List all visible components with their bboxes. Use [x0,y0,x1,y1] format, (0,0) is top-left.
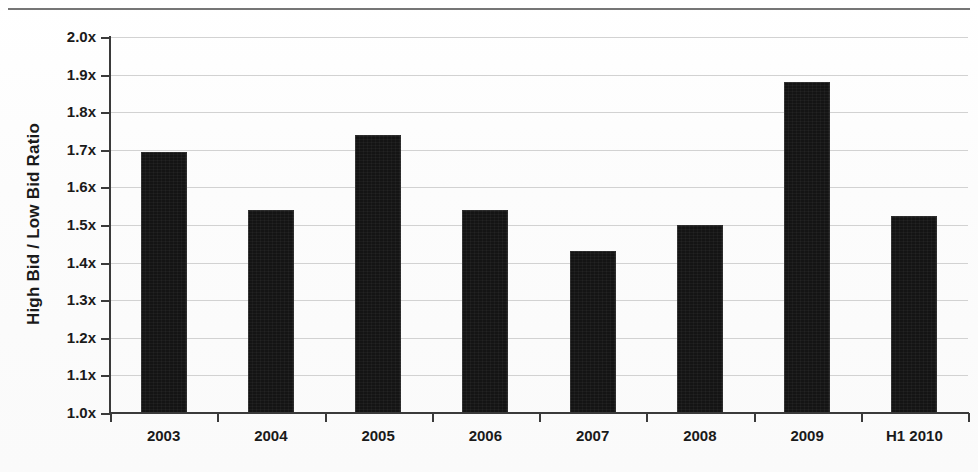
bar [677,225,723,413]
gridline [110,112,968,113]
gridline [110,225,968,226]
bar-chart: High Bid / Low Bid Ratio 1.0x1.1x1.2x1.3… [0,0,978,472]
y-axis-tick [101,375,110,377]
x-axis-tick [754,413,756,422]
x-axis-tick [539,413,541,422]
y-axis-tick [101,413,110,415]
gridline [110,150,968,151]
x-axis-tick-label: 2003 [147,427,180,444]
plot-area [110,37,968,413]
x-axis-tick [217,413,219,422]
y-axis-tick-label: 1.8x [34,103,96,120]
x-axis-tick-label: 2004 [254,427,287,444]
y-axis-tick [101,150,110,152]
bar [784,82,830,413]
y-axis-tick-label: 1.0x [34,404,96,421]
y-axis-tick [101,112,110,114]
y-axis-tick-label: 1.9x [34,66,96,83]
y-axis-tick-label: 1.4x [34,254,96,271]
gridline [110,37,968,38]
y-axis-tick [101,225,110,227]
x-axis-tick [110,413,112,422]
bar [462,210,508,413]
gridline [110,300,968,301]
bar [570,251,616,413]
y-axis-tick [101,37,110,39]
bar [248,210,294,413]
gridline [110,263,968,264]
gridline [110,75,968,76]
y-axis-tick-label: 1.1x [34,366,96,383]
y-axis-tick-label: 1.2x [34,329,96,346]
x-axis-tick [432,413,434,422]
x-axis-tick-label: H1 2010 [886,427,943,444]
x-axis-tick-label: 2008 [683,427,716,444]
x-axis-tick [325,413,327,422]
y-axis-tick [101,338,110,340]
y-axis-tick-label: 1.5x [34,216,96,233]
y-axis-tick [101,263,110,265]
y-axis-tick [101,187,110,189]
y-axis-tick-label: 1.7x [34,141,96,158]
gridline [110,375,968,376]
x-axis-tick [646,413,648,422]
bar [891,216,937,413]
y-axis-tick-label: 1.3x [34,291,96,308]
y-axis-tick-label: 2.0x [34,28,96,45]
x-axis-tick-label: 2007 [576,427,609,444]
bar [141,152,187,413]
bar [355,135,401,413]
gridline [110,338,968,339]
x-axis-tick-label: 2009 [790,427,823,444]
x-axis-tick-label: 2005 [361,427,394,444]
x-axis-tick [861,413,863,422]
y-axis-tick [101,75,110,77]
y-axis-tick [101,300,110,302]
x-axis-tick-label: 2006 [469,427,502,444]
x-axis-tick [968,413,970,422]
y-axis-tick-label: 1.6x [34,178,96,195]
gridline [110,187,968,188]
